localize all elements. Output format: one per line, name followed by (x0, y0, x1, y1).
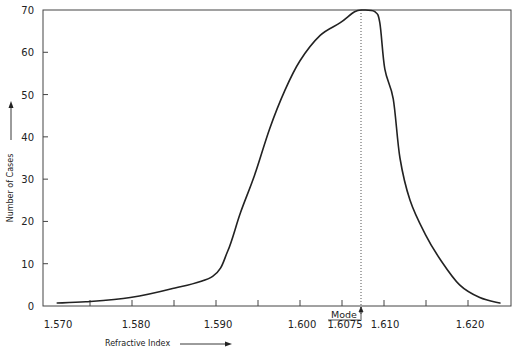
y-tick-label: 70 (21, 5, 34, 16)
y-tick-label: 50 (21, 90, 34, 101)
y-tick-label: 60 (21, 47, 34, 58)
y-axis-tick-labels: 010203040506070 (21, 5, 34, 312)
mode-label: Mode (331, 309, 357, 320)
y-axis-ticks (43, 52, 48, 263)
y-tick-label: 30 (21, 174, 34, 185)
y-axis-arrow-icon (9, 101, 14, 108)
x-axis-tick-labels: 1.5701.5801.5901.6001.60751.6101.620 (44, 319, 485, 330)
distribution-curve (57, 10, 500, 303)
x-tick-label: 1.590 (204, 319, 233, 330)
x-tick-label: 1.570 (44, 319, 73, 330)
x-axis-title-group: Refractive Index (105, 339, 232, 348)
x-axis-title: Refractive Index (105, 339, 170, 348)
refractive-index-chart: 1.5701.5801.5901.6001.60751.6101.620 010… (0, 0, 517, 352)
y-axis-title-group: Number of Cases (6, 101, 15, 222)
y-tick-label: 10 (21, 259, 34, 270)
x-tick-label: 1.600 (288, 319, 317, 330)
x-tick-label: 1.610 (371, 319, 400, 330)
y-tick-label: 40 (21, 132, 34, 143)
x-tick-label: 1.620 (456, 319, 485, 330)
x-tick-label: 1.580 (122, 319, 151, 330)
x-axis-arrow-icon (225, 342, 232, 347)
y-tick-label: 20 (21, 216, 34, 227)
x-tick-label: 1.6075 (328, 319, 363, 330)
x-axis-ticks (90, 300, 468, 306)
y-axis-title: Number of Cases (6, 154, 15, 223)
y-tick-label: 0 (28, 301, 34, 312)
